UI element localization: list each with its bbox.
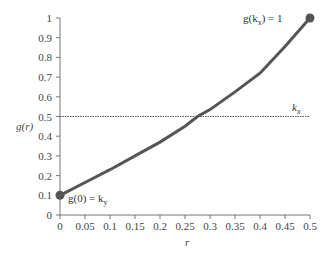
y-tick-label: 0 [47, 209, 53, 221]
g-curve [60, 18, 310, 195]
y-tick-label: 0.8 [38, 51, 52, 63]
x-tick-label: 0.4 [253, 220, 267, 232]
x-tick-label: 0.25 [175, 220, 195, 232]
y-tick-label: 0.7 [38, 71, 52, 83]
start-point [56, 191, 65, 200]
start-point-label: g(0) = ky [68, 192, 108, 207]
end-point-label: g(kx) = 1 [243, 12, 283, 27]
x-tick-label: 0.45 [275, 220, 295, 232]
x-tick-label: 0.15 [125, 220, 145, 232]
kx-label: kx [292, 101, 301, 116]
x-tick-label: 0.2 [153, 220, 167, 232]
x-tick-label: 0.3 [203, 220, 217, 232]
y-tick-label: 0.1 [38, 189, 52, 201]
y-tick-label: 1 [47, 12, 53, 24]
x-tick-label: 0.1 [103, 220, 117, 232]
x-tick-label: 0.05 [75, 220, 95, 232]
y-tick-label: 0.2 [38, 170, 52, 182]
y-axis-label: g(r) [16, 120, 33, 133]
x-tick-label: 0.5 [303, 220, 317, 232]
x-axis-label: r [185, 236, 190, 248]
y-tick-label: 0.6 [38, 91, 52, 103]
y-tick-label: 0.4 [38, 130, 52, 142]
chart: 00.10.20.30.40.50.60.70.80.9100.050.10.1… [0, 0, 329, 257]
y-tick-label: 0.5 [38, 111, 52, 123]
x-tick-label: 0 [57, 220, 63, 232]
end-point [306, 14, 315, 23]
x-tick-label: 0.35 [225, 220, 245, 232]
y-tick-label: 0.9 [38, 32, 52, 44]
y-tick-label: 0.3 [38, 150, 52, 162]
